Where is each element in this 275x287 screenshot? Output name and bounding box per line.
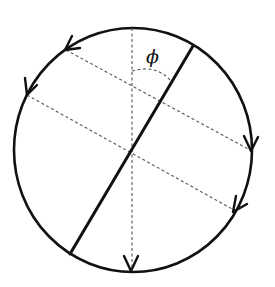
angle-phi-label: ϕ — [146, 47, 159, 66]
arrowhead-bottom-icon — [124, 256, 138, 271]
circle-diagram — [0, 0, 275, 287]
angle-arc — [132, 69, 170, 80]
